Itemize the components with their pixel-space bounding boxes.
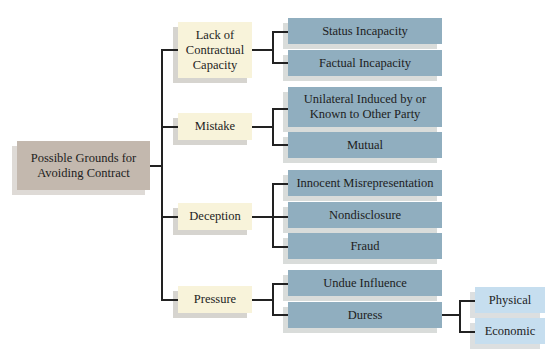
- node-label: Mutual: [347, 138, 383, 153]
- connector-duress-b: [459, 331, 475, 333]
- node-label: Fraud: [350, 239, 379, 254]
- node-economic: Economic: [475, 318, 545, 344]
- connector-capacity-v: [272, 31, 274, 63]
- node-label: Duress: [348, 308, 383, 323]
- node-nondisclosure: Nondisclosure: [288, 202, 442, 228]
- node-label: Lack of Contractual Capacity: [178, 28, 252, 73]
- connector-duress: [442, 314, 460, 316]
- node-fraud: Fraud: [288, 233, 442, 259]
- connector-mistake-b: [272, 144, 288, 146]
- connector-branch-2: [161, 126, 178, 128]
- node-mistake: Mistake: [178, 113, 252, 140]
- node-label: Deception: [189, 209, 240, 224]
- connector-deception: [252, 216, 288, 218]
- connector-branch-1: [161, 49, 178, 51]
- node-physical: Physical: [475, 287, 545, 313]
- node-innocent-misrepresentation: Innocent Misrepresentation: [288, 170, 442, 196]
- node-label: Undue Influence: [323, 276, 407, 291]
- connector-mistake-v: [272, 108, 274, 145]
- connector-capacity: [252, 49, 273, 51]
- node-unilateral: Unilateral Induced by or Known to Other …: [288, 87, 442, 127]
- connector-branch-3: [161, 216, 178, 218]
- connector-deception-a: [272, 183, 288, 185]
- connector-deception-v: [272, 183, 274, 247]
- node-deception: Deception: [178, 203, 252, 230]
- connector-trunk: [161, 49, 163, 300]
- node-status-incapacity: Status Incapacity: [288, 18, 442, 44]
- root-node: Possible Grounds for Avoiding Contract: [17, 141, 150, 190]
- node-factual-incapacity: Factual Incapacity: [288, 50, 442, 76]
- connector-capacity-a: [272, 31, 288, 33]
- node-label: Pressure: [194, 292, 236, 307]
- node-mutual: Mutual: [288, 132, 442, 158]
- connector-branch-4: [161, 299, 178, 301]
- node-pressure: Pressure: [178, 286, 252, 313]
- connector-pressure-b: [272, 314, 288, 316]
- node-label: Economic: [485, 324, 536, 339]
- connector-mistake: [252, 126, 273, 128]
- connector-deception-c: [272, 246, 288, 248]
- node-label: Innocent Misrepresentation: [296, 176, 433, 191]
- connector-duress-v: [459, 300, 461, 332]
- node-label: Status Incapacity: [322, 24, 408, 39]
- connector-mistake-a: [272, 108, 288, 110]
- node-label: Mistake: [195, 119, 235, 134]
- node-label: Physical: [489, 293, 531, 308]
- node-duress: Duress: [288, 302, 442, 328]
- connector-capacity-b: [272, 62, 288, 64]
- node-label: Factual Incapacity: [319, 56, 411, 71]
- connector-pressure-a: [272, 283, 288, 285]
- node-undue-influence: Undue Influence: [288, 270, 442, 296]
- node-label: Nondisclosure: [329, 208, 401, 223]
- root-label: Possible Grounds for Avoiding Contract: [17, 151, 150, 181]
- connector-pressure-v: [272, 283, 274, 315]
- connector-pressure: [252, 299, 273, 301]
- connector-duress-a: [459, 300, 475, 302]
- node-label: Unilateral Induced by or Known to Other …: [288, 92, 442, 122]
- node-lack-of-contractual-capacity: Lack of Contractual Capacity: [178, 22, 252, 78]
